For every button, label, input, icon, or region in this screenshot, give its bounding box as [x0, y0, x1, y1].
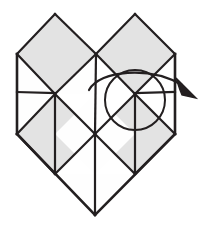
crease-right-square-midline: [135, 92, 175, 93]
crease-left-square-midline: [17, 92, 55, 93]
rotation-arrowhead: [176, 78, 196, 98]
origami-diagram-figure: [0, 0, 210, 228]
crease-center-notch-vertical: [95, 54, 96, 134]
origami-heart-diagram-svg: [0, 0, 210, 228]
